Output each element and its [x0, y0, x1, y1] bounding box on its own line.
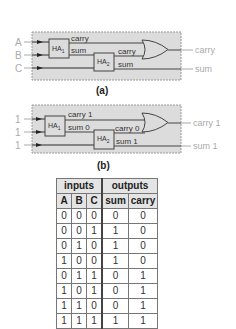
output-sum-label: sum: [195, 64, 212, 74]
input-1-label: 1: [15, 114, 21, 125]
col-carry: carry: [129, 194, 158, 209]
table-row: 10101: [57, 284, 158, 299]
ha1-sum-label: sum: [71, 46, 86, 55]
outputs-header: outputs: [102, 179, 158, 194]
inputs-header: inputs: [57, 179, 103, 194]
caption-b: (b): [97, 160, 110, 171]
ha1-sum-label: sum 0: [68, 123, 90, 132]
table-row: 11001: [57, 299, 158, 314]
input-3-label: 1: [15, 140, 21, 151]
column-header-row: A B C sum carry: [57, 194, 158, 209]
output-sum-label: sum 1: [193, 141, 218, 151]
group-header-row: inputs outputs: [57, 179, 158, 194]
table-row: 01010: [57, 239, 158, 254]
table-row: 00110: [57, 224, 158, 239]
col-b: B: [72, 194, 87, 209]
table-row: 10010: [57, 254, 158, 269]
full-adder-diagram-b: 1 1 1 HA1 carry 1 sum 0 HA2 carry 0 sum …: [0, 100, 236, 180]
table-row: 01101: [57, 269, 158, 284]
output-carry-label: carry: [195, 45, 215, 55]
table-row: 11111: [57, 314, 158, 329]
ha2-carry-label: carry 0: [115, 124, 140, 133]
ha2-carry-label: carry: [118, 47, 136, 56]
table-row: 00000: [57, 209, 158, 224]
col-c: C: [87, 194, 103, 209]
output-carry-label: carry 1: [193, 118, 221, 128]
ha2-sum-label: sum 1: [116, 137, 138, 146]
full-adder-diagram-a: A B C HA1 carry sum HA2 carry sum carry …: [0, 0, 236, 100]
caption-a: (a): [96, 85, 108, 96]
col-sum: sum: [102, 194, 129, 209]
input-2-label: 1: [15, 127, 21, 138]
col-a: A: [57, 194, 72, 209]
ha2-sum-label: sum: [118, 60, 133, 69]
ha1-carry-label: carry 1: [68, 110, 93, 119]
input-b-label: B: [15, 50, 22, 61]
input-a-label: A: [15, 37, 22, 48]
truth-table: inputs outputs A B C sum carry 00000 001…: [56, 178, 158, 329]
ha1-carry-label: carry: [71, 34, 89, 43]
input-c-label: C: [15, 63, 22, 74]
